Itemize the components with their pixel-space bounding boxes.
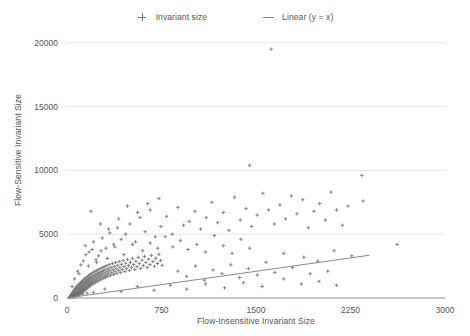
plot-area: 05000100001500020000 0750150022503000 — [0, 0, 470, 336]
scatter-chart: Invariant size Linear (y = x) 0500010000… — [0, 0, 470, 336]
svg-text:15000: 15000 — [34, 102, 58, 112]
svg-text:3000: 3000 — [436, 305, 455, 315]
gridlines — [67, 43, 445, 298]
x-axis-ticks: 0750150022503000 — [65, 305, 455, 315]
svg-text:1500: 1500 — [247, 305, 266, 315]
svg-text:5000: 5000 — [39, 229, 58, 239]
x-axis-label: Flow-Insensitive Invariant Size — [67, 316, 445, 326]
scatter-points — [68, 47, 399, 299]
svg-text:10000: 10000 — [34, 165, 58, 175]
svg-text:0: 0 — [65, 305, 70, 315]
y-axis-ticks: 05000100001500020000 — [34, 38, 58, 303]
svg-text:20000: 20000 — [34, 38, 58, 48]
svg-text:0: 0 — [53, 293, 58, 303]
trend-line — [67, 255, 369, 298]
svg-text:750: 750 — [154, 305, 168, 315]
y-axis-label: Flow-Sensitive Invariant Size — [13, 85, 23, 215]
svg-text:2250: 2250 — [341, 305, 360, 315]
